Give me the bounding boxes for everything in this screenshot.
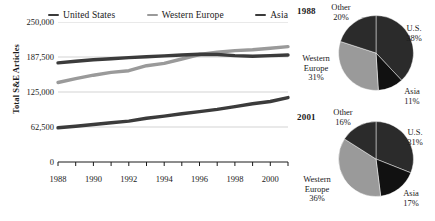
pie-2001-we-pct: 36% (297, 194, 337, 204)
pie-1988-we-name: Western Europe (302, 53, 330, 73)
legend-swatch-western-europe (147, 14, 158, 17)
pie-2001-asia-name: Asia (403, 188, 419, 198)
pie-2001-label-western-europe: Western Europe 36% (297, 175, 337, 204)
pie-1988-other-name: Other (331, 2, 350, 12)
pie-1988-asia-pct: 11% (396, 97, 428, 107)
x-tick-1994: 1994 (149, 174, 179, 184)
legend-item-united-states: United States (48, 10, 115, 20)
pie-1988-label-asia: Asia 11% (396, 87, 428, 106)
pie-1988-we-pct: 31% (296, 73, 336, 83)
x-tick-1992: 1992 (114, 174, 144, 184)
x-tick-1990: 1990 (78, 174, 108, 184)
pie-1988-year-label: 1988 (297, 6, 316, 16)
pie-chart-1988: 1988 Other 20% U.S. 38% Western Europe 3… (295, 0, 435, 108)
series-line-western-europe (58, 47, 288, 83)
pie-2001-label-asia: Asia 17% (395, 189, 427, 208)
figure-container: United States Western Europe Asia Total … (0, 0, 435, 221)
x-tick-2000: 2000 (255, 174, 285, 184)
pie-2001-label-us: U.S. 31% (399, 128, 431, 147)
chart-legend: United States Western Europe Asia (48, 7, 288, 23)
pie-1988-asia-name: Asia (404, 86, 420, 96)
pie-2001-asia-pct: 17% (395, 199, 427, 209)
x-axis (58, 162, 288, 166)
pie-1988-label-other: Other 20% (323, 3, 359, 22)
x-axis-ticks (58, 162, 288, 166)
pie-1988-other-pct: 20% (323, 13, 359, 23)
pie-2001-us-name: U.S. (407, 127, 422, 137)
x-tick-1998: 1998 (220, 174, 250, 184)
legend-label-asia: Asia (270, 10, 288, 20)
pie-1988-label-us: U.S. 38% (398, 24, 430, 43)
line-chart-plot-area (0, 22, 295, 172)
pie-1988-us-name: U.S. (406, 23, 421, 33)
pie-chart-2001: 2001 Other 16% U.S. 31% Western Europe 3… (295, 106, 435, 216)
pie-1988-us-pct: 38% (398, 34, 430, 44)
pie-2001-we-name: Western Europe (303, 174, 331, 194)
x-tick-1988: 1988 (43, 174, 73, 184)
pie-1988-label-western-europe: Western Europe 31% (296, 54, 336, 83)
legend-item-western-europe: Western Europe (147, 10, 224, 20)
pie-2001-year-label: 2001 (297, 112, 316, 122)
x-tick-1996: 1996 (185, 174, 215, 184)
legend-label-western-europe: Western Europe (162, 10, 224, 20)
legend-swatch-asia (255, 14, 266, 17)
legend-swatch-united-states (48, 14, 59, 17)
pie-2001-other-pct: 16% (325, 118, 361, 128)
pie-2001-label-other: Other 16% (325, 108, 361, 127)
legend-label-united-states: United States (63, 10, 115, 20)
legend-item-asia: Asia (255, 10, 288, 20)
pie-2001-other-name: Other (333, 107, 352, 117)
figure-caption (0, 213, 435, 221)
series-line-asia (58, 98, 288, 128)
line-chart: Total S&E Articles 250,000 187,500 125,0… (0, 22, 295, 197)
pie-2001-us-pct: 31% (399, 138, 431, 148)
